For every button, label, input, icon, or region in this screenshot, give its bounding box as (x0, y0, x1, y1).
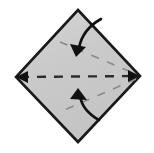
origami-figure (0, 0, 154, 153)
origami-diagram-canvas (0, 0, 154, 153)
